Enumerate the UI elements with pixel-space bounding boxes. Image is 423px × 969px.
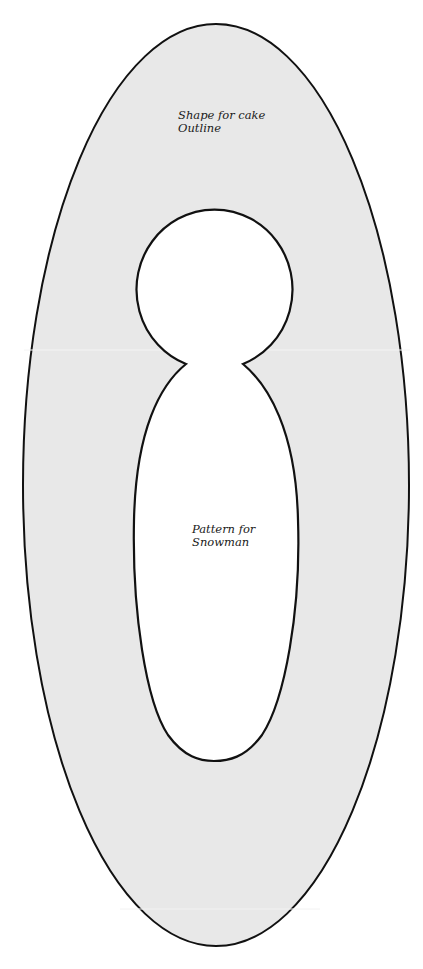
snowman-pattern-shape [134,210,299,761]
snowman-pattern-label-line-2: Snowman [192,536,255,549]
cake-outline-label-line-2: Outline [178,122,265,135]
template-diagram [0,0,423,969]
cake-outline-label: Shape for cake Outline [178,109,265,135]
snowman-pattern-label: Pattern for Snowman [192,523,255,549]
